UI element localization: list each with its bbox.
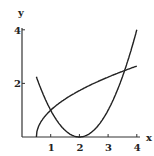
chart: 1234 24 x y bbox=[0, 0, 154, 156]
svg-text:2: 2 bbox=[14, 78, 21, 89]
x-axis-label: x bbox=[146, 132, 153, 143]
parabola-curve bbox=[36, 30, 136, 137]
svg-text:4: 4 bbox=[14, 25, 21, 36]
y-axis-label: y bbox=[17, 7, 25, 18]
svg-text:3: 3 bbox=[105, 142, 112, 153]
svg-text:2: 2 bbox=[76, 142, 83, 153]
y-ticks: 24 bbox=[14, 25, 25, 90]
svg-text:1: 1 bbox=[48, 142, 55, 153]
svg-text:4: 4 bbox=[134, 142, 141, 153]
